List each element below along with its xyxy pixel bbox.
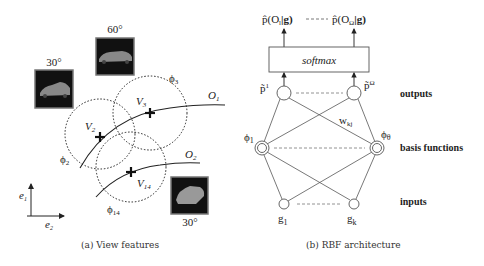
view-marker-v3 (145, 108, 155, 118)
basis-label-phi14: ϕ14 (107, 203, 120, 217)
panel-b-rbf-architecture: p̂(Ol|g) p̂(OΩ|g) softmax p̃1 (244, 13, 463, 250)
input-node-label-k: gk (347, 212, 357, 227)
basis-node-1 (255, 141, 269, 155)
output-node-omega (347, 86, 361, 100)
network-connections (264, 98, 375, 201)
basis-node-label-theta: ϕθ (381, 128, 391, 142)
caption-view-features: (a) View features (81, 240, 159, 250)
panel-a-view-features: 30° 60° 30° O1 O2 V3 (19, 23, 225, 250)
layer-label-basis-functions: basis functions (400, 142, 463, 153)
output-node-label-omega: p̃Ω (364, 79, 375, 91)
figure-canvas: 30° 60° 30° O1 O2 V3 (0, 0, 484, 266)
input-node-1 (279, 199, 289, 209)
car-image-60 (96, 38, 134, 75)
view-label-v2: V2 (85, 120, 96, 134)
basis-label-phi3: ϕ3 (169, 72, 179, 86)
layer-label-outputs: outputs (400, 88, 432, 99)
car-image-30-right (171, 177, 208, 214)
output-prob-right: p̂(OΩ|g) (332, 13, 366, 27)
basis-node-label-1: ϕ1 (244, 131, 254, 145)
caption-rbf-architecture: (b) RBF architecture (306, 240, 401, 250)
coordinate-axes (27, 184, 64, 216)
view-marker-v14 (126, 167, 136, 177)
input-node-k (349, 199, 359, 209)
weight-label-wkj: wkj (339, 114, 352, 128)
axis-label-e2: e2 (45, 218, 53, 231)
angle-label-60: 60° (107, 23, 122, 35)
softmax-label: softmax (302, 54, 336, 66)
curve-label-o2: O2 (185, 148, 197, 162)
car-image-30-left (35, 70, 73, 108)
view-label-v14: V14 (137, 177, 151, 191)
input-node-label-1: g1 (278, 212, 288, 227)
layer-ellipsis-lines (274, 93, 365, 204)
output-prob-left: p̂(Ol|g) (262, 13, 293, 27)
basis-label-phi2: ϕ2 (60, 153, 70, 167)
angle-label-30-left: 30° (46, 56, 61, 68)
output-node-1 (277, 86, 291, 100)
basis-node-theta (370, 141, 384, 155)
axis-label-e1: e1 (19, 189, 27, 202)
output-node-label-1: p̃1 (260, 82, 270, 94)
layer-label-inputs: inputs (400, 196, 427, 207)
view-label-v3: V3 (136, 95, 147, 109)
view-marker-v2 (95, 132, 105, 142)
angle-label-30-right: 30° (182, 216, 197, 228)
curve-label-o1: O1 (208, 89, 219, 103)
